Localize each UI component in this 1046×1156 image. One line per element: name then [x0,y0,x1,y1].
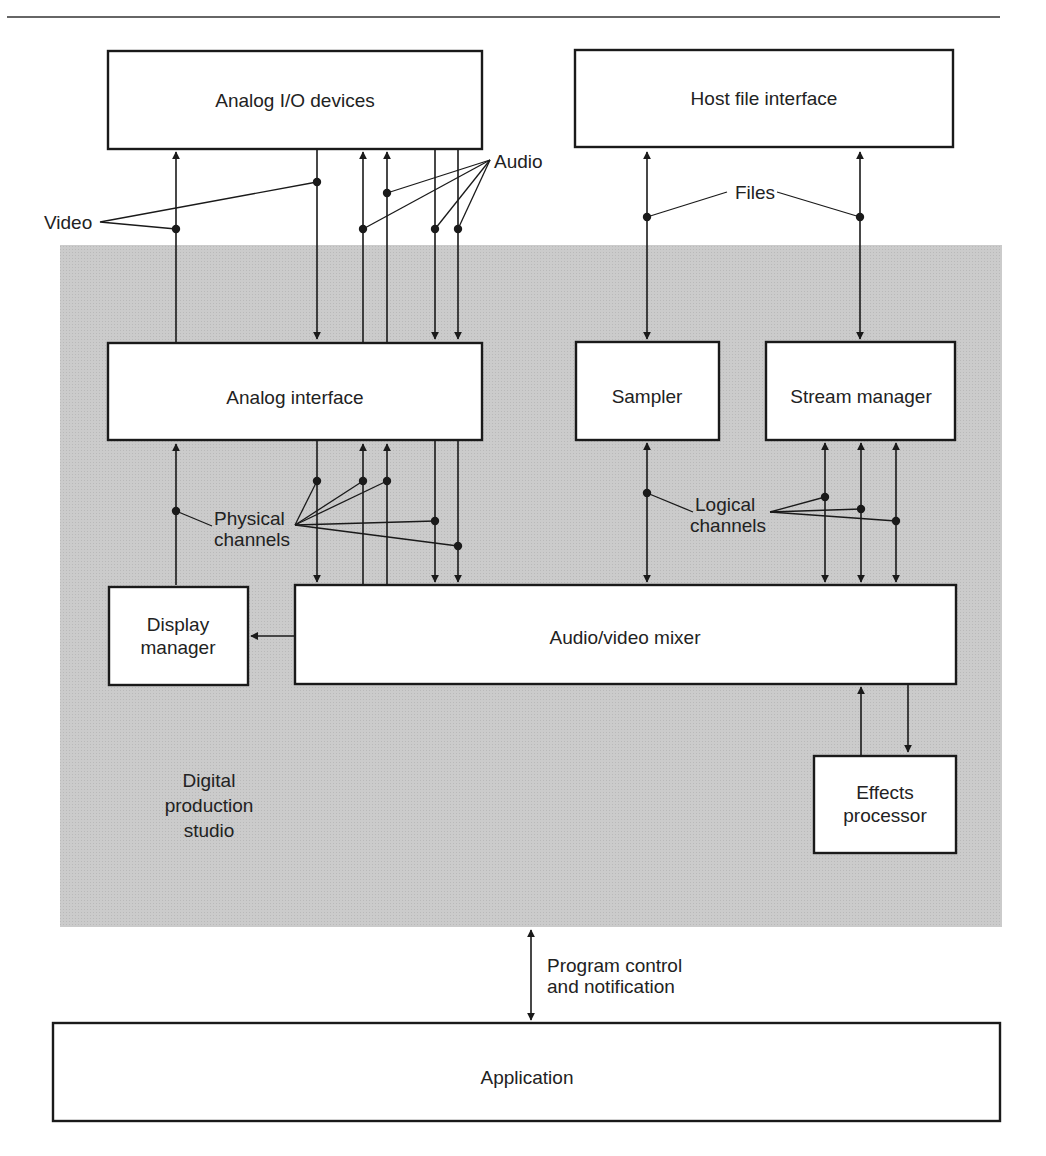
analog-interface-box: Analog interface [108,343,482,440]
program-control-label-2: and notification [547,976,675,997]
audio-leaders [359,160,490,233]
sampler-label: Sampler [612,386,683,407]
video-leaders [100,178,321,233]
studio-label-3: studio [184,820,235,841]
display-manager-label-1: Display [147,614,210,635]
logical-channels-label-2: channels [690,515,766,536]
application-label: Application [481,1067,574,1088]
host-file-box: Host file interface [575,50,953,147]
program-control-label-1: Program control [547,955,682,976]
mixer-box: Audio/video mixer [295,585,956,684]
physical-channels-label-2: channels [214,529,290,550]
analog-io-box: Analog I/O devices [108,51,482,149]
effects-label-2: processor [843,805,927,826]
analog-interface-label: Analog interface [226,387,363,408]
studio-label-1: Digital [183,770,236,791]
video-label: Video [44,212,92,233]
physical-channels-label-1: Physical [214,508,285,529]
application-box: Application [53,1023,1000,1121]
logical-channels-label-1: Logical [695,494,755,515]
files-label: Files [735,182,775,203]
effects-processor-box: Effects processor [814,756,956,853]
analog-io-label: Analog I/O devices [215,90,374,111]
architecture-diagram: Analog I/O devices Host file interface A… [0,0,1046,1156]
host-file-label: Host file interface [691,88,838,109]
display-manager-box: Display manager [109,587,248,685]
effects-label-1: Effects [856,782,914,803]
audio-label: Audio [494,151,543,172]
display-manager-label-2: manager [141,637,217,658]
stream-manager-label: Stream manager [790,386,932,407]
sampler-box: Sampler [576,342,719,440]
studio-label-2: production [165,795,254,816]
mixer-label: Audio/video mixer [549,627,701,648]
stream-manager-box: Stream manager [766,342,955,440]
